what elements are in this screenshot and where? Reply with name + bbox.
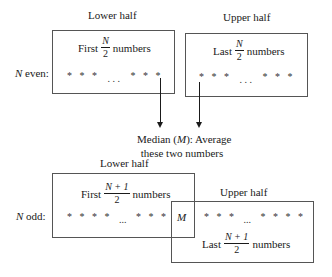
prefix-text: Last <box>202 238 221 250</box>
prefix-text: First <box>81 188 101 200</box>
fraction-n-plus-1-over-2: N + 1 2 <box>224 232 249 255</box>
arrow-head-icon <box>196 122 202 128</box>
suffix-text: numbers <box>247 45 285 57</box>
odd-lower-description: First N + 1 2 numbers <box>81 182 171 205</box>
even-row-label: N even: <box>15 67 49 79</box>
odd-upper-description: Last N + 1 2 numbers <box>202 232 290 255</box>
odd-lower-stars: * * * * ... * * * <box>67 211 166 222</box>
odd-row-label: N odd: <box>16 210 46 222</box>
odd-upper-half-caption: Upper half <box>220 186 267 198</box>
even-lower-description: First N 2 numbers <box>78 36 151 59</box>
prefix-text: First <box>78 42 98 54</box>
median-symbol: M <box>177 211 186 223</box>
even-upper-stars: * * * . . . * * * <box>199 71 293 82</box>
even-lower-stars: * * * . . . * * * <box>67 70 161 81</box>
prefix-text: Last <box>213 45 232 57</box>
even-upper-description: Last N 2 numbers <box>213 39 285 62</box>
suffix-text: numbers <box>252 238 290 250</box>
even-label-text: even: <box>22 67 49 79</box>
arrow-head-icon <box>157 122 163 128</box>
odd-lower-half-caption: Lower half <box>100 157 149 169</box>
odd-upper-half-box: * * * ... * * * * Last N + 1 2 numbers <box>171 201 314 263</box>
fraction-n-over-2: N 2 <box>101 36 110 59</box>
even-lower-half-caption: Lower half <box>88 9 137 21</box>
even-upper-half-box: Last N 2 numbers * * * . . . * * * <box>185 33 308 97</box>
suffix-text: numbers <box>133 188 171 200</box>
odd-label-text: odd: <box>23 210 45 222</box>
arrow-from-upper-first <box>199 82 200 123</box>
fraction-n-over-2: N 2 <box>235 39 244 62</box>
even-lower-half-box: First N 2 numbers * * * . . . * * * <box>52 30 175 94</box>
arrow-from-lower-last <box>160 78 161 123</box>
median-note: Median (M): Average these two numbers <box>137 132 227 160</box>
fraction-n-plus-1-over-2: N + 1 2 <box>104 182 129 205</box>
suffix-text: numbers <box>113 42 151 54</box>
odd-upper-stars: * * * ... * * * * <box>204 211 303 222</box>
even-upper-half-caption: Upper half <box>223 11 270 23</box>
